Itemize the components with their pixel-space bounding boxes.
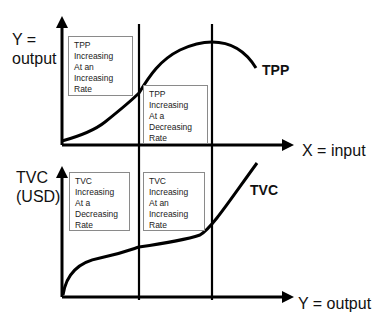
- box-line: TPP: [149, 89, 202, 100]
- top-y-axis-label-line2: output: [12, 49, 56, 68]
- tpp-curve-label: TPP: [262, 62, 289, 79]
- box-line: Decreasing: [149, 122, 202, 133]
- box-line: Increasing: [74, 51, 127, 62]
- box-line: Rate: [149, 133, 202, 144]
- box-line: Increasing: [149, 187, 199, 198]
- box-line: Increasing: [149, 100, 202, 111]
- box-line: At a: [75, 198, 124, 209]
- region-box-tpp-decreasing-rate: TPP Increasing At a Decreasing Rate: [143, 85, 208, 144]
- bottom-y-axis-label-line2: (USD): [16, 187, 60, 206]
- box-line: TVC: [149, 176, 199, 187]
- box-line: At an: [74, 62, 127, 73]
- box-line: Increasing: [75, 187, 124, 198]
- box-line: At a: [149, 111, 202, 122]
- bottom-y-axis-label: TVC (USD): [16, 168, 60, 206]
- bottom-x-axis-label: Y = output: [298, 294, 371, 313]
- box-line: At an: [149, 198, 199, 209]
- top-y-axis-label-line1: Y =: [12, 30, 56, 49]
- bottom-y-axis-label-line1: TVC: [16, 168, 60, 187]
- box-line: Increasing: [74, 73, 127, 84]
- region-box-tvc-decreasing-rate: TVC Increasing At a Decreasing Rate: [69, 172, 130, 231]
- box-line: Rate: [75, 220, 124, 231]
- top-x-axis-label: X = input: [302, 141, 366, 160]
- region-box-tpp-increasing-rate: TPP Increasing At an Increasing Rate: [68, 36, 133, 96]
- box-line: Increasing: [149, 209, 199, 220]
- tvc-curve-label: TVC: [250, 182, 278, 199]
- box-line: Decreasing: [75, 209, 124, 220]
- box-line: Rate: [74, 84, 127, 95]
- box-line: TPP: [74, 40, 127, 51]
- region-box-tvc-increasing-rate: TVC Increasing At an Increasing Rate: [143, 172, 205, 231]
- box-line: TVC: [75, 176, 124, 187]
- top-y-axis-label: Y = output: [12, 30, 56, 68]
- box-line: Rate: [149, 220, 199, 231]
